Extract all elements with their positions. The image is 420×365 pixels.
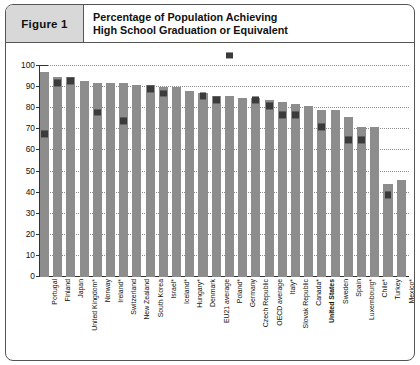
y-tick-label-40: 40 xyxy=(11,187,35,197)
y-tick-label-50: 50 xyxy=(11,166,35,176)
x-axis-label-canada: Canada* xyxy=(314,279,324,357)
bar-group xyxy=(80,44,89,277)
bar-group xyxy=(132,44,141,277)
chart-plot-area: 0102030405060708090100 PortugalFinlandJa… xyxy=(6,43,414,360)
x-axis-label-japan: Japan xyxy=(76,279,86,357)
x-axis-labels: PortugalFinlandJapanUnited Kingdom*Norwa… xyxy=(39,279,409,359)
bar-group xyxy=(397,44,406,277)
y-tick-label-100: 100 xyxy=(11,60,35,70)
y-tick-label-80: 80 xyxy=(11,102,35,112)
figure-title-line-1: Percentage of Population Achieving xyxy=(93,11,414,24)
bar-group xyxy=(344,44,353,277)
bar-group xyxy=(198,44,207,277)
figure-number-cell: Figure 1 xyxy=(6,5,84,42)
bar-group xyxy=(93,44,102,277)
marker-point xyxy=(41,130,48,137)
bar xyxy=(225,96,234,277)
marker-point xyxy=(358,136,365,143)
bar xyxy=(251,98,260,277)
marker-point xyxy=(345,136,352,143)
bar xyxy=(278,102,287,277)
x-axis-label-south-korea: South Korea xyxy=(156,279,166,357)
bar xyxy=(357,127,366,277)
bar xyxy=(304,106,313,277)
marker-point xyxy=(252,96,259,103)
x-axis-label-spain: Spain xyxy=(354,279,364,357)
bar-group xyxy=(53,44,62,277)
bar xyxy=(370,127,379,277)
bar-group xyxy=(66,44,75,277)
x-axis-label-finland: Finland xyxy=(63,279,73,357)
x-axis-label-germany: Germany xyxy=(248,279,258,357)
x-axis-label-iceland: Iceland* xyxy=(182,279,192,357)
bar xyxy=(397,180,406,277)
bar xyxy=(265,100,274,277)
y-tick-label-70: 70 xyxy=(11,123,35,133)
bar-group xyxy=(265,44,274,277)
bar xyxy=(238,98,247,277)
bar xyxy=(53,77,62,277)
x-axis-label-sweden: Sweden xyxy=(341,279,351,357)
x-axis-label-hungary: Hungary* xyxy=(195,279,205,357)
x-axis-label-italy: Italy* xyxy=(288,279,298,357)
bar xyxy=(291,104,300,277)
figure-header: Figure 1 Percentage of Population Achiev… xyxy=(6,5,414,43)
bar xyxy=(40,72,49,277)
marker-point xyxy=(318,124,325,131)
bar-group xyxy=(251,44,260,277)
marker-point xyxy=(67,77,74,84)
bar-group xyxy=(304,44,313,277)
y-tick-label-20: 20 xyxy=(11,229,35,239)
marker-point xyxy=(266,103,273,110)
marker-point xyxy=(279,111,286,118)
bar xyxy=(331,110,340,277)
x-axis-label-norway: Norway xyxy=(103,279,113,357)
bar xyxy=(159,87,168,277)
figure-number-label: Figure 1 xyxy=(21,18,67,30)
y-tick-label-90: 90 xyxy=(11,81,35,91)
marker-point xyxy=(147,86,154,93)
x-axis-label-israel: Israel* xyxy=(169,279,179,357)
x-axis-label-czech-republic: Czech Republic xyxy=(261,279,271,357)
bar xyxy=(185,91,194,277)
y-tick-label-10: 10 xyxy=(11,250,35,260)
x-axis-label-chile: Chile* xyxy=(380,279,390,357)
bar-group xyxy=(383,44,392,277)
chart-bars xyxy=(39,43,409,277)
figure-title-line-2: High School Graduation or Equivalent xyxy=(93,24,414,37)
x-axis-label-portugal: Portugal xyxy=(50,279,60,357)
bar-group xyxy=(278,44,287,277)
marker-point xyxy=(120,117,127,124)
bar-group xyxy=(106,44,115,277)
x-axis-label-denmark: Denmark xyxy=(208,279,218,357)
x-axis-label-new-zealand: New Zealand xyxy=(142,279,152,357)
bar xyxy=(317,110,326,277)
bar-group xyxy=(172,44,181,277)
bar-group xyxy=(331,44,340,277)
x-axis-label-united-kingdom: United Kingdom* xyxy=(90,279,100,357)
bar-group xyxy=(119,44,128,277)
bar-group xyxy=(357,44,366,277)
x-axis-label-slovak-republic: Slovak Republic xyxy=(301,279,311,357)
y-tick-label-0: 0 xyxy=(11,271,35,281)
bar-group xyxy=(159,44,168,277)
x-axis-label-oecd-average: OECD average xyxy=(275,279,285,357)
marker-point xyxy=(226,52,233,59)
x-axis-label-ireland: Ireland* xyxy=(116,279,126,357)
marker-point xyxy=(213,96,220,103)
bar-group xyxy=(291,44,300,277)
bar-group xyxy=(238,44,247,277)
bar-group xyxy=(317,44,326,277)
bar-group xyxy=(185,44,194,277)
marker-point xyxy=(292,111,299,118)
bar-group xyxy=(212,44,221,277)
x-axis-label-switzerland: Switzerland xyxy=(129,279,139,357)
bar xyxy=(132,85,141,277)
figure-title-cell: Percentage of Population Achieving High … xyxy=(84,5,414,42)
marker-point xyxy=(54,79,61,86)
bar-group xyxy=(370,44,379,277)
bar xyxy=(172,87,181,277)
x-axis-label-turkey: Turkey xyxy=(393,279,403,357)
bar xyxy=(212,96,221,277)
x-axis-label-eu21-average: EU21 average xyxy=(222,279,232,357)
